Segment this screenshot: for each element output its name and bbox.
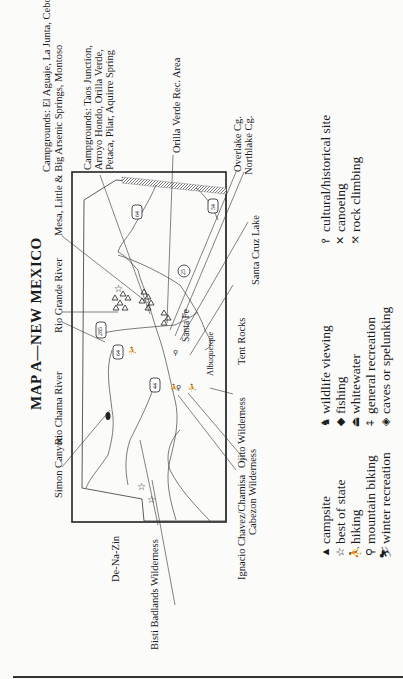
caves-icon: ◈ bbox=[378, 414, 393, 430]
hwy-285: 285 bbox=[97, 327, 103, 336]
fishing-icon: ◆ bbox=[333, 414, 348, 430]
legend-item: ⏏whitewater bbox=[348, 307, 363, 430]
label-northlake: Northlake Cg. bbox=[244, 116, 255, 176]
southwest-road bbox=[168, 430, 210, 521]
mountain-biking-icon: ⚲ bbox=[363, 544, 378, 560]
legend-col-3: ⫯cultural/historical site ✕canoeing ⤧roc… bbox=[318, 115, 363, 248]
svg-text:☆: ☆ bbox=[137, 481, 146, 492]
page-title: MAP A—NEW MEXICO bbox=[29, 237, 44, 410]
label-simon-canyon: Simon Canyon bbox=[54, 435, 65, 498]
legend-col-1: ▲campsite ☆best of state ⛹hiking ⚲mounta… bbox=[318, 452, 393, 560]
wildlife-viewing-icon: ♞ bbox=[318, 414, 333, 430]
label-albuquerque: Albuquerque bbox=[206, 332, 215, 376]
activity-markers: ⛹ ⚲ ⛹ ⚲ ⛹ bbox=[128, 346, 197, 392]
general-recreation-icon: ⍏ bbox=[363, 414, 378, 430]
svg-text:☆: ☆ bbox=[147, 494, 156, 505]
label-bisti-badlands: Bisti Badlands Wilderness bbox=[150, 539, 161, 650]
label-rio-chama: Rio Chama River bbox=[54, 372, 65, 446]
label-tent-rocks: Tent Rocks bbox=[237, 318, 248, 365]
legend-item: ☆best of state bbox=[333, 452, 348, 560]
label-rio-grande: Rio Grande River bbox=[54, 258, 65, 333]
cultural-site-icon: ⫯ bbox=[318, 232, 333, 248]
canoeing-icon: ✕ bbox=[333, 232, 348, 248]
legend-item: ⚲mountain biking bbox=[363, 452, 378, 560]
label-orilla-verde: Orilla Verde Rec. Area bbox=[172, 58, 183, 153]
legend-item: ⛷winter recreation bbox=[378, 452, 393, 560]
legend-item: ✕canoeing bbox=[333, 115, 348, 248]
label-campgrounds-1-line2: Mesa, Little & Big Arsenic Springs, Mont… bbox=[54, 45, 65, 236]
best-of-state-markers: ☆ ☆ ☆ bbox=[114, 283, 156, 505]
svg-text:⚲: ⚲ bbox=[173, 349, 178, 357]
hiking-icon: ⛹ bbox=[348, 544, 363, 560]
hwy-25: 25 bbox=[180, 269, 186, 275]
legend-item: ◈caves or spelunking bbox=[378, 307, 393, 430]
hwy-64-west: 64 bbox=[115, 350, 121, 356]
legend-item: ♞wildlife viewing bbox=[318, 307, 333, 430]
legend-item: ◆fishing bbox=[333, 307, 348, 430]
legend-item: ▲campsite bbox=[318, 452, 333, 560]
label-campgrounds-2-line1: Campgrounds: Taos Junction, bbox=[83, 45, 94, 170]
hatched-border bbox=[122, 177, 226, 194]
svg-text:⛹: ⛹ bbox=[188, 383, 197, 392]
label-campgrounds-2-line2: Arroyo Hondo, Orilla Verde, bbox=[94, 49, 105, 170]
best-of-state-icon: ☆ bbox=[333, 544, 348, 560]
hwy-44: 44 bbox=[152, 383, 158, 389]
label-ignacio-chavez: Ignacio Chavez/Chamisa bbox=[237, 475, 248, 580]
hwy-54: 54 bbox=[210, 204, 216, 210]
legend-item: ⍏general recreation bbox=[363, 307, 378, 430]
label-de-na-zin: De-Na-Zin bbox=[111, 536, 122, 582]
label-cabezon-wilderness: Cabezon Wilderness bbox=[248, 449, 259, 535]
hwy-64-north: 64 bbox=[134, 211, 140, 217]
svg-text:☆: ☆ bbox=[114, 283, 123, 294]
svg-text:⚲: ⚲ bbox=[176, 384, 181, 392]
label-campgrounds-1-line1: Campgrounds: El Aguaje, La Junta, Ceboll… bbox=[42, 0, 53, 172]
legend-item: ⤧rock climbing bbox=[348, 115, 363, 248]
label-overlake: Overlake Cg. bbox=[233, 116, 244, 172]
map-frame bbox=[72, 172, 226, 522]
svg-text:⛹: ⛹ bbox=[128, 346, 137, 355]
legend-col-2: ♞wildlife viewing ◆fishing ⏏whitewater ⍏… bbox=[318, 307, 393, 430]
label-santa-cruz-lake: Santa Cruz Lake bbox=[251, 215, 262, 285]
label-campgrounds-2-line3: Petaca, Pilar, Aquirre Spring bbox=[105, 50, 116, 170]
legend-item: ⫯cultural/historical site bbox=[318, 115, 333, 248]
whitewater-icon: ⏏ bbox=[348, 414, 363, 430]
road-25 bbox=[118, 255, 211, 350]
rock-climbing-icon: ⤧ bbox=[348, 232, 363, 248]
campsite-markers bbox=[112, 289, 171, 325]
road-44 bbox=[126, 383, 155, 485]
label-santa-fe: Santa Fe bbox=[182, 309, 192, 342]
fishing-marker bbox=[106, 412, 111, 420]
legend-item: ⛹hiking bbox=[348, 452, 363, 560]
page-bottom-rule bbox=[13, 676, 403, 678]
winter-recreation-icon: ⛷ bbox=[378, 544, 393, 560]
campsite-icon: ▲ bbox=[318, 544, 333, 560]
label-ojito-wilderness: Ojito Wilderness bbox=[237, 397, 248, 468]
